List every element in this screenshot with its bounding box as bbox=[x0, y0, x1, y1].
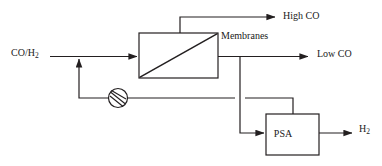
stream-recycle-left bbox=[79, 59, 108, 98]
low-co-outlet-label: Low CO bbox=[317, 49, 352, 59]
flow-diagram-canvas bbox=[0, 0, 382, 166]
high-co-outlet-label: High CO bbox=[283, 11, 319, 21]
membrane-unit-label: Membranes bbox=[221, 31, 268, 41]
hydrogen-outlet-label: H2 bbox=[359, 124, 370, 134]
psa-unit-label: PSA bbox=[274, 129, 292, 139]
membrane-unit-diagonal bbox=[140, 34, 218, 78]
feed-stream-label: CO/H2 bbox=[11, 48, 39, 58]
stream-psa-feed bbox=[240, 57, 264, 134]
stream-recycle-right bbox=[245, 98, 293, 114]
process-flow-diagram: CO/H2 Membranes High CO Low CO PSA H2 bbox=[0, 0, 382, 166]
